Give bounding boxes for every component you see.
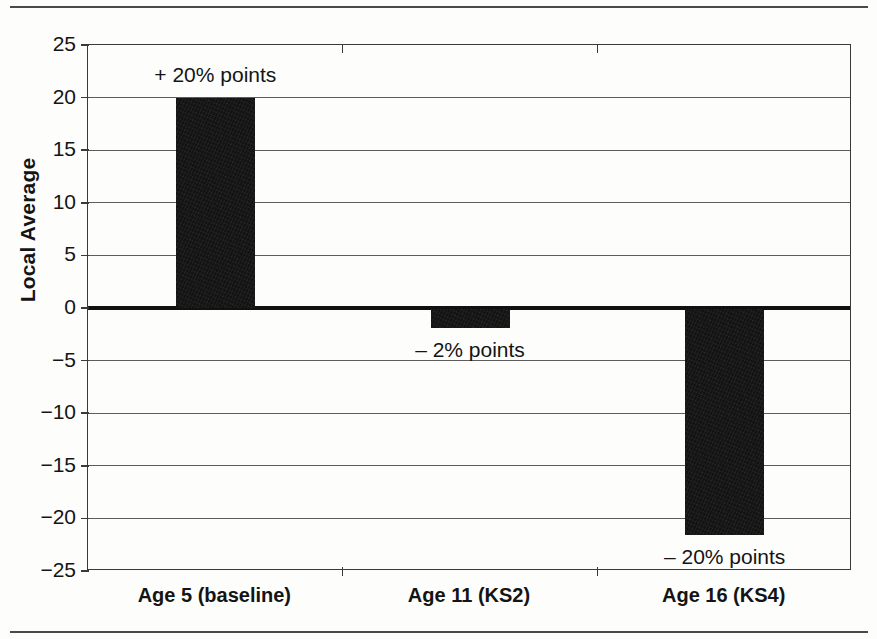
y-axis-tickmark [81, 149, 89, 151]
x-axis-tickmark [597, 44, 599, 53]
chart-figure: Local Average 2520151050−5−10−15−20−25 +… [0, 0, 877, 639]
page-rule-top [10, 6, 868, 8]
y-axis-tick-label: 5 [20, 243, 76, 264]
bar [431, 309, 510, 328]
y-axis-tickmark [81, 44, 89, 46]
y-axis-tickmark [81, 97, 89, 99]
y-axis-tickmark [81, 518, 89, 520]
y-axis-tick-label: −5 [20, 349, 76, 370]
y-axis-title: Local Average [16, 140, 40, 320]
y-axis-tickmark [81, 307, 89, 309]
y-axis-tick-label: 15 [20, 138, 76, 159]
y-axis-tickmark [81, 465, 89, 467]
plot-area: + 20% points– 2% points– 20% points [87, 44, 851, 570]
y-axis-tick-label: 10 [20, 191, 76, 212]
x-axis-category-label: Age 11 (KS2) [342, 585, 597, 605]
y-axis-tick-label: 0 [20, 296, 76, 317]
bar-value-label: + 20% points [65, 64, 365, 85]
y-axis-tick-label: 20 [20, 86, 76, 107]
y-axis-tick-label: −10 [20, 401, 76, 422]
y-axis-tick-label: −15 [20, 454, 76, 475]
x-axis-tickmark [342, 44, 344, 53]
bar [176, 98, 255, 308]
bar-value-label: – 20% points [575, 546, 875, 567]
y-axis-tickmark [81, 570, 89, 572]
y-axis-tick-label: −25 [20, 559, 76, 580]
y-axis-tickmark [81, 360, 89, 362]
y-axis-tick-label: 25 [20, 33, 76, 54]
y-axis-tickmark [81, 255, 89, 257]
bar [685, 309, 764, 535]
y-axis-tickmark [81, 412, 89, 414]
x-axis-tickmark [342, 567, 344, 576]
x-axis-category-label: Age 5 (baseline) [87, 585, 342, 605]
x-axis-tickmark [597, 567, 599, 576]
page-rule-bottom [10, 631, 868, 633]
bar-value-label: – 2% points [320, 339, 620, 360]
y-axis-tick-label: −20 [20, 506, 76, 527]
y-axis-tickmark [81, 202, 89, 204]
x-axis-category-label: Age 16 (KS4) [596, 585, 851, 605]
